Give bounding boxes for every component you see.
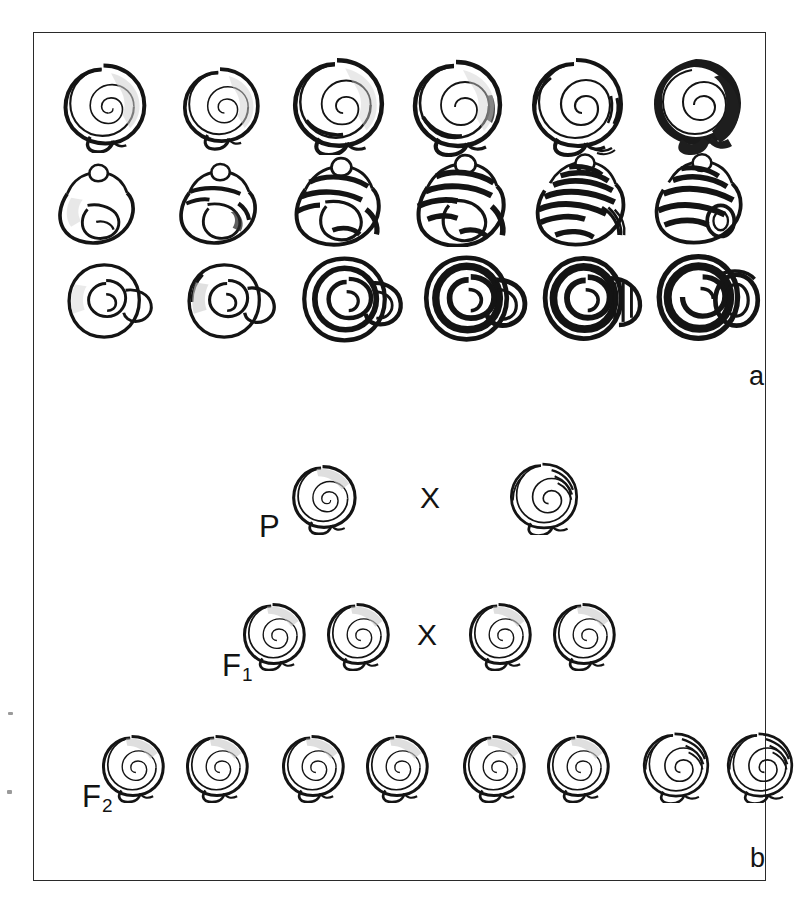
scan-speck [7,790,12,794]
shell-lateral-6 [650,151,754,245]
generation-label-p-text: P [259,509,280,544]
cross-symbol-f1: X [417,620,437,650]
shell-f1-offspring-1 [238,597,310,671]
shell-lateral-4 [412,153,520,247]
shell-lateral-3 [289,155,397,247]
figure-panel-frame: a P [33,32,766,881]
shell-lateral-5 [532,151,638,247]
panel-label-a: a [749,363,764,390]
shell-lateral-2 [172,161,274,246]
cross-symbol-p: X [420,483,440,513]
shell-umbilical-2 [182,261,282,341]
scan-speck [8,712,13,715]
shell-apical-6 [646,51,746,155]
shell-apical-5 [526,51,626,157]
panel-label-b: b [750,845,765,872]
shell-f2-offspring-6 [542,729,614,803]
shell-apical-3 [286,53,388,155]
shell-f2-offspring-1 [97,729,169,803]
shell-p-parent-unbanded [287,459,361,535]
shell-apical-4 [406,53,506,157]
shell-f2-offspring-5 [458,729,530,803]
generation-label-p: P [259,511,280,542]
shell-f1-offspring-4 [548,597,620,671]
shell-apical-1 [56,58,151,153]
shell-umbilical-3 [300,255,406,343]
shell-f2-offspring-8 [723,727,797,803]
shell-f1-offspring-2 [322,597,394,671]
shell-umbilical-5 [542,253,646,343]
shell-f2-offspring-4 [361,729,433,803]
shell-apical-2 [176,61,264,151]
shell-f2-offspring-2 [181,729,253,803]
shell-umbilical-1 [62,261,162,341]
shell-p-parent-banded [506,457,582,535]
shell-umbilical-6 [656,251,762,343]
shell-lateral-1 [52,161,152,246]
shell-umbilical-4 [422,253,528,343]
shell-f2-offspring-3 [277,729,349,803]
shell-f1-offspring-3 [464,597,536,671]
shell-f2-offspring-7 [639,727,713,803]
